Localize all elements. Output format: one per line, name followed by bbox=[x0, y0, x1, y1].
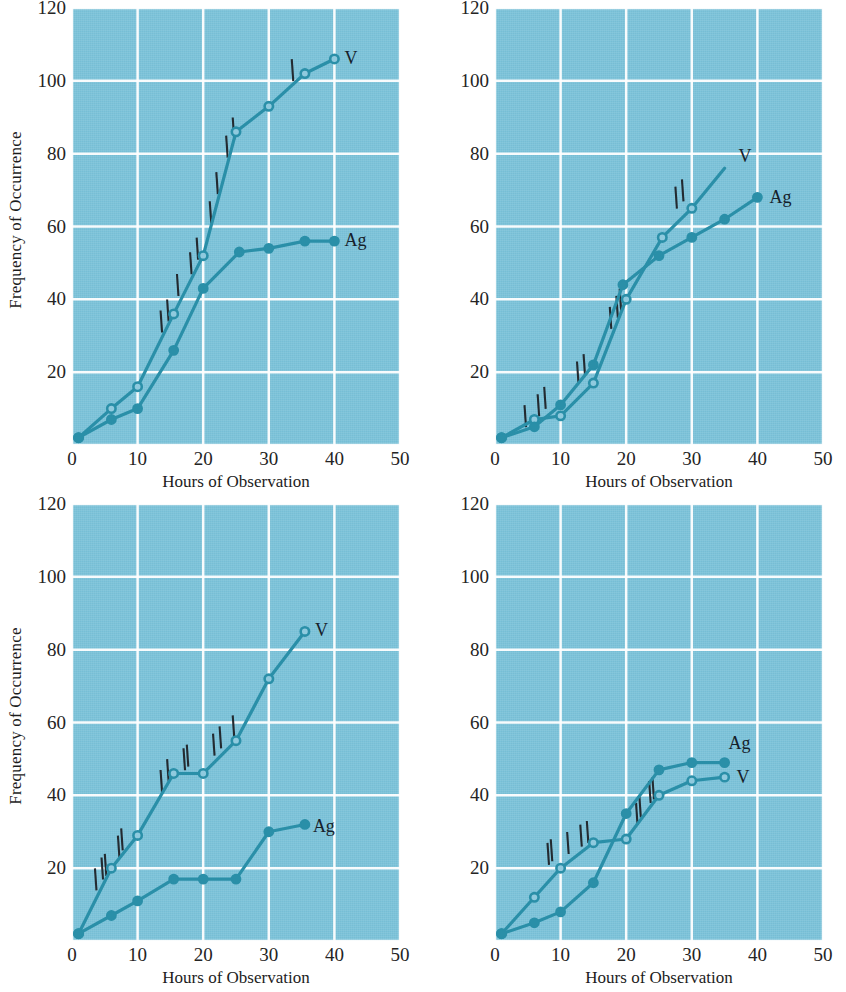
plot-svg-1 bbox=[72, 8, 400, 445]
x-tick-label: 0 bbox=[490, 944, 500, 966]
x-tick-label: 0 bbox=[490, 448, 500, 470]
series-label-ag: Ag bbox=[769, 187, 791, 208]
y-tick-label: 60 bbox=[447, 216, 489, 238]
y-tick-label: 20 bbox=[24, 361, 66, 383]
series-label-v: V bbox=[739, 146, 752, 167]
chart-panel-4: Hours of Observation 0102030405020406080… bbox=[423, 496, 846, 992]
y-tick-label: 80 bbox=[24, 639, 66, 661]
x-tick-label: 50 bbox=[391, 448, 410, 470]
series-label-ag: Ag bbox=[729, 733, 751, 754]
series-label-v: V bbox=[737, 767, 750, 788]
x-tick-label: 10 bbox=[128, 944, 147, 966]
y-tick-label: 20 bbox=[447, 857, 489, 879]
series-label-v: V bbox=[315, 620, 328, 641]
x-tick-label: 20 bbox=[617, 448, 636, 470]
plot-area-1 bbox=[72, 8, 400, 445]
y-tick-label: 80 bbox=[447, 143, 489, 165]
y-tick-label: 40 bbox=[447, 288, 489, 310]
x-tick-label: 50 bbox=[391, 944, 410, 966]
plot-svg-4 bbox=[495, 504, 823, 941]
y-tick-label: 20 bbox=[447, 361, 489, 383]
x-tick-label: 20 bbox=[194, 448, 213, 470]
x-tick-label: 50 bbox=[814, 944, 833, 966]
x-tick-label: 30 bbox=[682, 944, 701, 966]
x-tick-label: 30 bbox=[682, 448, 701, 470]
plot-area-2 bbox=[495, 8, 823, 445]
y-tick-label: 100 bbox=[447, 566, 489, 588]
x-axis-title-3: Hours of Observation bbox=[72, 968, 400, 988]
chart-panel-3: Frequency of Occurrence Hours of Observa… bbox=[0, 496, 423, 992]
x-tick-label: 40 bbox=[325, 448, 344, 470]
y-tick-label: 40 bbox=[447, 784, 489, 806]
x-tick-label: 40 bbox=[748, 448, 767, 470]
chart-panel-1: Frequency of Occurrence Hours of Observa… bbox=[0, 0, 423, 496]
series-label-ag: Ag bbox=[313, 816, 335, 837]
plot-svg-3 bbox=[72, 504, 400, 941]
y-tick-label: 40 bbox=[24, 288, 66, 310]
x-tick-label: 20 bbox=[194, 944, 213, 966]
x-tick-label: 10 bbox=[551, 944, 570, 966]
chart-panel-2: Hours of Observation 0102030405020406080… bbox=[423, 0, 846, 496]
y-tick-label: 120 bbox=[447, 0, 489, 19]
series-label-v: V bbox=[344, 48, 357, 69]
x-axis-title-2: Hours of Observation bbox=[495, 472, 823, 492]
plot-area-3 bbox=[72, 504, 400, 941]
x-tick-label: 40 bbox=[748, 944, 767, 966]
y-tick-label: 60 bbox=[24, 216, 66, 238]
plot-svg-2 bbox=[495, 8, 823, 445]
y-tick-label: 120 bbox=[447, 493, 489, 515]
series-label-ag: Ag bbox=[344, 230, 366, 251]
x-tick-label: 10 bbox=[128, 448, 147, 470]
x-tick-label: 0 bbox=[67, 944, 77, 966]
y-tick-label: 80 bbox=[24, 143, 66, 165]
y-tick-label: 20 bbox=[24, 857, 66, 879]
x-tick-label: 30 bbox=[259, 944, 278, 966]
y-tick-label: 80 bbox=[447, 639, 489, 661]
x-tick-label: 50 bbox=[814, 448, 833, 470]
y-tick-label: 60 bbox=[447, 712, 489, 734]
y-tick-label: 100 bbox=[24, 70, 66, 92]
x-axis-title-1: Hours of Observation bbox=[72, 472, 400, 492]
figure-panel-grid: Frequency of Occurrence Hours of Observa… bbox=[0, 0, 846, 992]
y-tick-label: 120 bbox=[24, 0, 66, 19]
x-tick-label: 0 bbox=[67, 448, 77, 470]
x-tick-label: 30 bbox=[259, 448, 278, 470]
x-tick-label: 20 bbox=[617, 944, 636, 966]
plot-area-4 bbox=[495, 504, 823, 941]
y-tick-label: 40 bbox=[24, 784, 66, 806]
x-tick-label: 10 bbox=[551, 448, 570, 470]
y-tick-label: 60 bbox=[24, 712, 66, 734]
y-tick-label: 100 bbox=[447, 70, 489, 92]
y-tick-label: 100 bbox=[24, 566, 66, 588]
x-axis-title-4: Hours of Observation bbox=[495, 968, 823, 988]
y-tick-label: 120 bbox=[24, 493, 66, 515]
x-tick-label: 40 bbox=[325, 944, 344, 966]
